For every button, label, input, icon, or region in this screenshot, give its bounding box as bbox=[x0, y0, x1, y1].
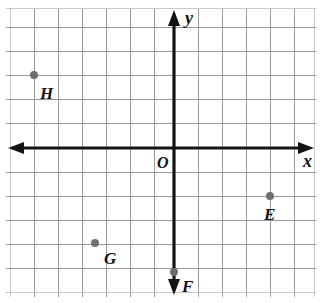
data-point-label-f: F bbox=[182, 278, 193, 295]
y-axis-arrow-up bbox=[168, 10, 180, 26]
axes bbox=[0, 0, 322, 303]
y-axis-arrow-down bbox=[168, 279, 180, 295]
data-point-label-e: E bbox=[264, 206, 275, 223]
data-point-f bbox=[170, 268, 178, 276]
data-point-g bbox=[91, 239, 99, 247]
data-point-label-h: H bbox=[40, 85, 53, 102]
coordinate-plane-figure: y x O H E G F bbox=[0, 0, 322, 303]
x-axis-label: x bbox=[303, 152, 312, 170]
data-point-e bbox=[266, 192, 274, 200]
y-axis-label: y bbox=[185, 9, 193, 27]
data-point-h bbox=[30, 71, 38, 79]
x-axis-arrow-left bbox=[8, 142, 24, 154]
origin-label: O bbox=[157, 155, 169, 171]
data-point-label-g: G bbox=[104, 250, 116, 267]
